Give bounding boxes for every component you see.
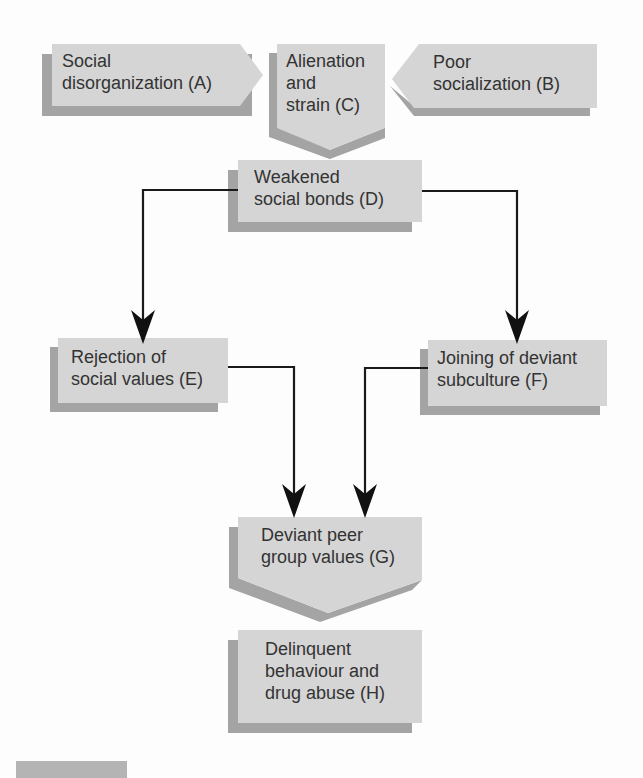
node-f-line-2: subculture (F) — [437, 369, 577, 391]
edge-e-to-g — [228, 367, 306, 518]
edge-f-to-g — [353, 368, 428, 518]
node-f-label: Joining of deviant subculture (F) — [437, 347, 577, 391]
node-d-line-1: Weakened — [254, 166, 384, 188]
node-a-line-1: Social — [62, 50, 212, 72]
edge-d-to-e — [131, 190, 238, 344]
node-d-label: Weakened social bonds (D) — [254, 166, 384, 210]
node-h-line-2: behaviour and — [265, 660, 385, 682]
node-e-line-2: social values (E) — [71, 368, 203, 390]
node-d-line-2: social bonds (D) — [254, 188, 384, 210]
node-b-label: Poor socialization (B) — [433, 51, 560, 95]
node-a-label: Social disorganization (A) — [62, 50, 212, 94]
node-h-line-3: drug abuse (H) — [265, 682, 385, 704]
node-e-line-1: Rejection of — [71, 346, 203, 368]
node-g-line-1: Deviant peer — [261, 524, 395, 546]
node-g-line-2: group values (G) — [261, 546, 395, 568]
node-f-line-1: Joining of deviant — [437, 347, 577, 369]
footer-bar — [16, 761, 127, 778]
node-b-line-1: Poor — [433, 51, 560, 73]
node-g-label: Deviant peer group values (G) — [261, 524, 395, 568]
node-b-line-2: socialization (B) — [433, 73, 560, 95]
edge-d-to-f — [422, 191, 529, 344]
node-a-line-2: disorganization (A) — [62, 72, 212, 94]
node-c-line-3: strain (C) — [286, 94, 365, 116]
node-e-label: Rejection of social values (E) — [71, 346, 203, 390]
node-c-line-2: and — [286, 72, 365, 94]
node-c-label: Alienation and strain (C) — [286, 50, 365, 116]
node-h-label: Delinquent behaviour and drug abuse (H) — [265, 638, 385, 704]
node-h-line-1: Delinquent — [265, 638, 385, 660]
node-c-line-1: Alienation — [286, 50, 365, 72]
